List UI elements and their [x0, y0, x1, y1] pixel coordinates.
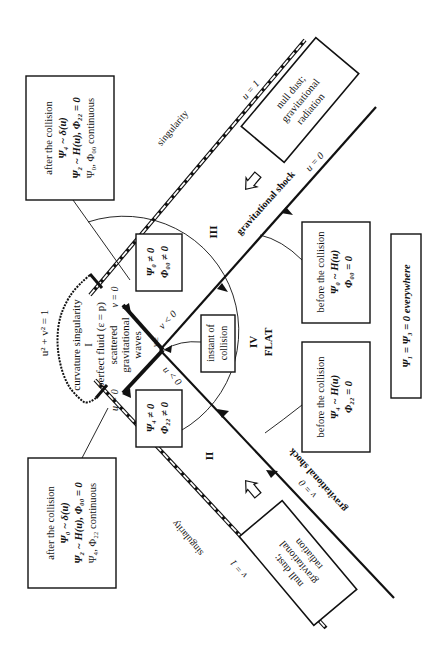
v-eq-0-label: v = 0 — [109, 286, 120, 307]
gravitational-label: gravitational — [119, 317, 131, 373]
svg-text:Ψ₄, Φ₂₂ continuous: Ψ₄, Φ₂₂ continuous — [87, 483, 98, 563]
null-dust-top-box: null dust; gravitational radiation — [241, 38, 358, 163]
before-collision-bottom-box: before the collision Ψ₄ ~ H(u) Φ₂₂ = 0 — [302, 342, 370, 452]
pointer-line — [73, 200, 130, 280]
scattered-label: scattered — [107, 325, 119, 365]
region-III-label: III — [207, 226, 219, 239]
v-lt-0-label: v < 0 — [156, 308, 178, 331]
svg-text:after the collision: after the collision — [43, 101, 54, 175]
svg-text:before the collision: before the collision — [315, 231, 326, 313]
shock-bottom-label: gravitational shock — [286, 446, 349, 515]
shock-top-label: gravitational shock — [234, 168, 297, 237]
svg-text:Ψ₂ ~ H(u), Φ₂₂ = 0: Ψ₂ ~ H(u), Φ₂₂ = 0 — [71, 96, 83, 178]
svg-text:after the collision: after the collision — [45, 486, 56, 560]
svg-text:Ψ₄ ~ δ(u): Ψ₄ ~ δ(u) — [57, 117, 69, 159]
circle-equation-label: u² + v² = 1 — [38, 310, 50, 357]
psi0-box: Ψ₀ ≠ 0 Φ₀₀ ≠ 0 — [136, 234, 182, 291]
instant-of-collision-box: instant of collision — [201, 315, 235, 372]
arrow-icon — [281, 207, 293, 215]
after-collision-top-box: after the collision Ψ₄ ~ δ(u) Ψ₂ ~ H(u),… — [26, 76, 114, 200]
region-IV-label: IV — [247, 336, 259, 348]
svg-text:Ψ₁ = Ψ₃ = 0 everywhere: Ψ₁ = Ψ₃ = 0 everywhere — [401, 264, 412, 368]
v-ge-label: v ≥ — [151, 336, 160, 347]
psi1-psi3-everywhere-box: Ψ₁ = Ψ₃ = 0 everywhere — [391, 234, 421, 398]
singularity-u1-line — [90, 40, 305, 295]
flat-label: FLAT — [262, 327, 274, 356]
hollow-arrow-icon — [240, 170, 263, 194]
pointer-line — [82, 408, 108, 458]
svg-text:Φ₀₀ = 0: Φ₀₀ = 0 — [343, 255, 354, 288]
svg-text:Φ₂₂ ≠ 0: Φ₂₂ ≠ 0 — [159, 401, 170, 434]
svg-text:Ψ₀ ~ H(u): Ψ₀ ~ H(u) — [329, 250, 341, 294]
svg-text:Ψ₄ ≠ 0: Ψ₄ ≠ 0 — [145, 403, 156, 432]
singularity-bottom-label: singularity — [169, 518, 205, 558]
after-collision-bottom-box: after the collision Ψ₀ ~ δ(u) Ψ₂ ~ H(u),… — [28, 458, 116, 588]
hollow-arrow-icon — [240, 476, 263, 500]
pointer-line — [265, 405, 302, 433]
svg-text:before the collision: before the collision — [315, 356, 326, 438]
svg-text:Φ₂₂ = 0: Φ₂₂ = 0 — [343, 380, 354, 413]
u-eq-0-label: u = 0 — [109, 389, 120, 411]
singularity-top-label: singularity — [154, 108, 190, 148]
svg-text:instant of: instant of — [205, 324, 216, 362]
waves-label: waves — [131, 331, 143, 359]
svg-text:collision: collision — [218, 326, 229, 360]
svg-text:Ψ₀ ~ δ(u): Ψ₀ ~ δ(u) — [59, 502, 71, 544]
region-I-label: I — [82, 343, 94, 347]
svg-text:Φ₀₀ ≠ 0: Φ₀₀ ≠ 0 — [159, 245, 170, 278]
curvature-singularity-label: curvature singularity — [70, 299, 82, 391]
u-eq-0-top-label: u = 0 — [303, 150, 326, 174]
pointer-line — [260, 235, 302, 260]
perfect-fluid-label: perfect fluid (ε = p) — [94, 302, 107, 388]
svg-text:Ψ₀ ≠ 0: Ψ₀ ≠ 0 — [145, 247, 156, 276]
null-dust-bottom-box: null dust; gravitational radiation — [239, 501, 356, 626]
svg-text:Ψ₀, Φ₀₀ continuous: Ψ₀, Φ₀₀ continuous — [85, 98, 96, 178]
svg-text:Ψ₂ ~ H(u), Φ₀₀ = 0: Ψ₂ ~ H(u), Φ₀₀ = 0 — [73, 481, 85, 563]
region-II-label: II — [203, 452, 215, 461]
before-collision-top-box: before the collision Ψ₀ ~ H(u) Φ₀₀ = 0 — [302, 222, 370, 323]
svg-text:Ψ₄ ~ H(u): Ψ₄ ~ H(u) — [329, 375, 341, 419]
psi4-box: Ψ₄ ≠ 0 Φ₂₂ ≠ 0 — [136, 390, 182, 447]
u-lt-0-label: u < 0 — [161, 364, 184, 387]
v-eq-1-label: v = 1 — [227, 558, 249, 581]
spacetime-diagram: curvature singularity I perfect fluid (ε… — [0, 0, 447, 665]
